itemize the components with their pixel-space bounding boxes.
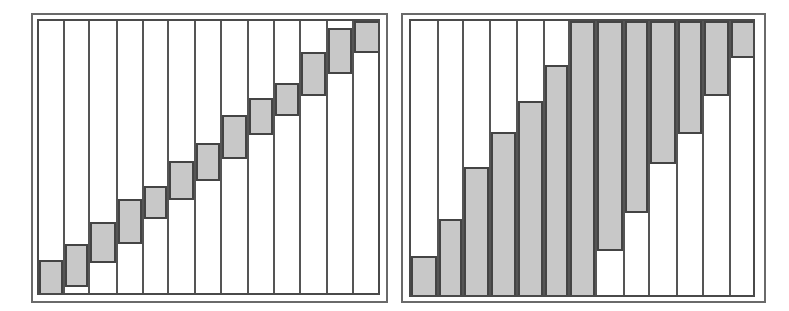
column xyxy=(196,21,222,293)
column xyxy=(411,21,439,295)
shaded-cell xyxy=(518,101,543,297)
shaded-cell xyxy=(118,199,142,244)
shaded-cell xyxy=(678,21,702,134)
shaded-cell xyxy=(328,28,352,74)
column xyxy=(249,21,275,293)
shaded-cell xyxy=(222,115,247,159)
column xyxy=(169,21,196,293)
shaded-cell xyxy=(704,21,729,96)
column xyxy=(545,21,570,295)
column xyxy=(731,21,755,295)
column xyxy=(39,21,65,293)
shaded-cell xyxy=(275,83,299,116)
shaded-cell xyxy=(301,52,326,96)
column xyxy=(354,21,380,293)
column xyxy=(222,21,249,293)
left-staircase-panel xyxy=(37,19,380,295)
shaded-cell xyxy=(439,219,462,297)
column xyxy=(275,21,301,293)
shaded-cell xyxy=(491,132,516,297)
column xyxy=(518,21,545,295)
shaded-cell xyxy=(144,186,167,219)
shaded-cell xyxy=(731,21,755,58)
column xyxy=(118,21,144,293)
shaded-cell xyxy=(39,260,63,295)
shaded-cell xyxy=(625,21,648,213)
column xyxy=(464,21,491,295)
shaded-cell xyxy=(249,98,273,135)
column xyxy=(625,21,650,295)
column xyxy=(65,21,90,293)
shaded-cell xyxy=(411,256,437,297)
column xyxy=(650,21,678,295)
shaded-cell xyxy=(90,222,116,263)
shaded-cell xyxy=(65,244,88,287)
column xyxy=(439,21,464,295)
column xyxy=(144,21,169,293)
right-band-panel xyxy=(409,19,755,297)
column xyxy=(704,21,731,295)
column xyxy=(678,21,704,295)
shaded-cell xyxy=(464,167,489,297)
column xyxy=(90,21,118,293)
column xyxy=(491,21,518,295)
shaded-cell xyxy=(196,143,220,181)
shaded-cell xyxy=(650,21,676,164)
shaded-cell xyxy=(597,21,623,251)
column xyxy=(597,21,625,295)
column xyxy=(328,21,354,293)
column xyxy=(301,21,328,293)
column xyxy=(570,21,597,295)
shaded-cell xyxy=(354,21,380,53)
shaded-cell xyxy=(545,65,568,297)
shaded-cell xyxy=(169,161,194,200)
shaded-cell xyxy=(570,21,595,297)
